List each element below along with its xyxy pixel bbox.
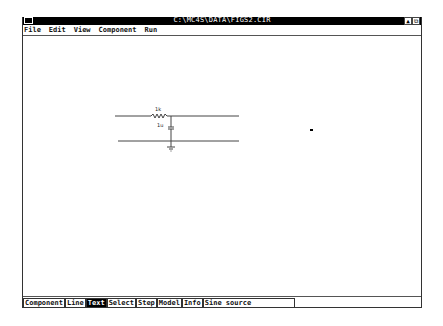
mode-toolbar: Component Line Text Select Step Model In…: [23, 296, 421, 308]
mouse-cursor: [310, 129, 313, 131]
title-bar: C:\MC4S\DATA\FIGS2.CIR ▲ ⧉: [23, 17, 421, 25]
tool-select[interactable]: Select: [107, 298, 136, 308]
restore-icon[interactable]: ⧉: [412, 17, 420, 25]
menu-view[interactable]: View: [70, 25, 95, 35]
capacitor-label[interactable]: 1u: [157, 122, 163, 128]
minimize-icon[interactable]: ▲: [404, 17, 412, 25]
window-buttons: ▲ ⧉: [404, 17, 420, 25]
menu-run[interactable]: Run: [141, 25, 162, 35]
tool-component[interactable]: Component: [23, 298, 65, 308]
resistor-label[interactable]: 1k: [155, 106, 161, 112]
tool-info[interactable]: Info: [182, 298, 203, 308]
menu-edit[interactable]: Edit: [45, 25, 70, 35]
tool-text[interactable]: Text: [86, 298, 107, 308]
schematic-canvas[interactable]: 1k 1u: [23, 36, 421, 296]
circuit-diagram: [23, 36, 421, 296]
tool-line[interactable]: Line: [65, 298, 86, 308]
component-type-field[interactable]: Sine source: [203, 298, 295, 308]
tool-step[interactable]: Step: [136, 298, 157, 308]
menu-component[interactable]: Component: [95, 25, 141, 35]
resistor-symbol: [151, 114, 167, 118]
menu-file[interactable]: File: [23, 25, 45, 35]
app-window: C:\MC4S\DATA\FIGS2.CIR ▲ ⧉ File Edit Vie…: [22, 17, 422, 308]
menu-bar: File Edit View Component Run: [23, 25, 421, 36]
tool-model[interactable]: Model: [157, 298, 182, 308]
window-title: C:\MC4S\DATA\FIGS2.CIR: [23, 16, 421, 25]
